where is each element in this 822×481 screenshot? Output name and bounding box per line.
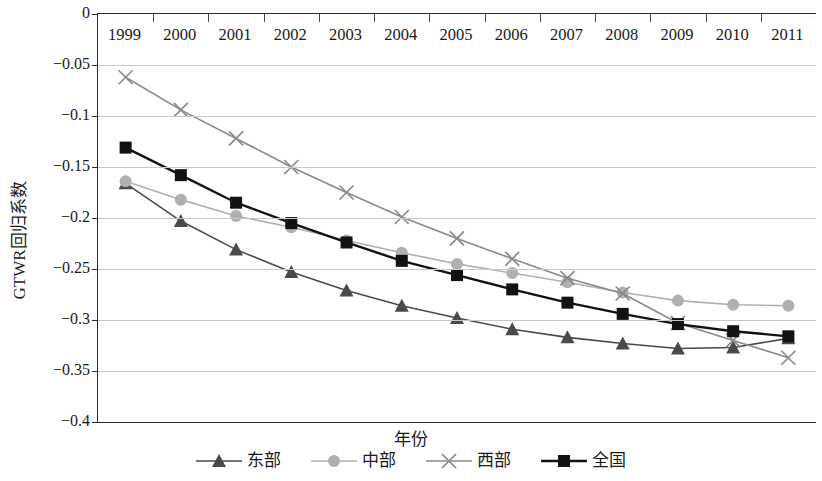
- y-axis-tickmark: [92, 167, 98, 168]
- x-axis-tickmark: [540, 14, 541, 22]
- y-axis-tickmark: [92, 269, 98, 270]
- data-point-square: [230, 197, 242, 209]
- x-axis-tickmark: [264, 14, 265, 22]
- data-point-triangle: [395, 299, 409, 312]
- x-axis-tick-label: 2004: [373, 22, 428, 48]
- x-axis-tickmark: [650, 14, 651, 22]
- x-axis-tick-label: 2000: [152, 22, 207, 48]
- x-axis-tickmark: [706, 14, 707, 22]
- data-point-circle: [672, 295, 684, 307]
- gridline: [98, 167, 816, 168]
- data-point-square: [506, 283, 518, 295]
- x-axis-title: 年份: [0, 425, 822, 450]
- data-point-square: [341, 236, 353, 248]
- data-point-triangle: [229, 243, 243, 256]
- y-axis-tick-label: −0.15: [28, 158, 90, 174]
- x-axis-tick-label: 2002: [263, 22, 318, 48]
- x-axis-tick-labels: 1999200020012002200320042005200620072008…: [97, 22, 815, 48]
- data-point-square: [782, 330, 794, 342]
- data-point-triangle: [284, 265, 298, 278]
- y-axis-tickmark: [92, 422, 98, 423]
- data-point-square: [558, 455, 570, 467]
- x-axis-tick-label: 2010: [705, 22, 760, 48]
- data-point-cross: [395, 210, 409, 224]
- x-axis-tick-label: 2006: [484, 22, 539, 48]
- legend-item-中部[interactable]: 中部: [311, 452, 396, 469]
- data-point-circle: [328, 455, 340, 467]
- data-point-cross: [119, 70, 133, 84]
- legend-label: 全国: [592, 452, 626, 469]
- data-point-square: [175, 169, 187, 181]
- legend-label: 西部: [477, 452, 511, 469]
- x-axis-tick-label: 2001: [207, 22, 262, 48]
- x-axis-tick-label: 2011: [760, 22, 815, 48]
- y-axis-tick-label: −0.05: [28, 56, 90, 72]
- x-axis-tickmark: [485, 14, 486, 22]
- legend-item-东部[interactable]: 东部: [196, 452, 281, 469]
- y-axis-tick-label: 0: [28, 5, 90, 21]
- chart-legend: 东部中部西部全国: [0, 452, 822, 469]
- y-axis-tick-label: −0.1: [28, 107, 90, 123]
- legend-swatch: [311, 454, 357, 468]
- legend-swatch: [426, 454, 472, 468]
- data-point-square: [396, 255, 408, 267]
- gridline: [98, 65, 816, 66]
- data-point-square: [617, 308, 629, 320]
- x-axis-tick-label: 1999: [97, 22, 152, 48]
- x-axis-title-label: 年份: [394, 430, 428, 449]
- gridline: [98, 218, 816, 219]
- data-point-cross: [505, 252, 519, 266]
- y-axis-tick-label: −0.2: [28, 209, 90, 225]
- gridline: [98, 116, 816, 117]
- legend-label: 中部: [362, 452, 396, 469]
- gridline: [98, 371, 816, 372]
- y-axis-tickmark: [92, 218, 98, 219]
- y-axis-tickmark: [92, 320, 98, 321]
- x-axis-tickmark: [595, 14, 596, 22]
- data-point-square: [561, 297, 573, 309]
- legend-swatch: [541, 454, 587, 468]
- gridline: [98, 320, 816, 321]
- data-point-circle: [782, 300, 794, 312]
- legend-item-全国[interactable]: 全国: [541, 452, 626, 469]
- data-point-square: [451, 269, 463, 281]
- y-axis-tick-label: −0.3: [28, 311, 90, 327]
- x-axis-tickmark: [208, 14, 209, 22]
- legend-item-西部[interactable]: 西部: [426, 452, 511, 469]
- data-point-cross: [340, 186, 354, 200]
- y-axis-tick-labels: 0−0.05−0.1−0.15−0.2−0.25−0.3−0.35−0.4: [24, 0, 90, 481]
- y-axis-tickmark: [92, 14, 98, 15]
- data-point-cross: [174, 103, 188, 117]
- x-axis-tickmark: [761, 14, 762, 22]
- x-axis-tick-label: 2007: [539, 22, 594, 48]
- y-axis-tickmark: [92, 116, 98, 117]
- x-axis-tick-label: 2003: [318, 22, 373, 48]
- x-axis-tickmark: [374, 14, 375, 22]
- data-point-cross: [781, 351, 795, 365]
- data-point-circle: [230, 210, 242, 222]
- legend-swatch: [196, 454, 242, 468]
- gtwr-coefficient-line-chart: GTWR回归系数 0−0.05−0.1−0.15−0.2−0.25−0.3−0.…: [0, 0, 822, 481]
- x-axis-tickmark: [429, 14, 430, 22]
- plot-area: [97, 13, 816, 423]
- data-point-cross: [450, 231, 464, 245]
- x-axis-tick-label: 2005: [428, 22, 483, 48]
- y-axis-tickmark: [92, 371, 98, 372]
- data-point-square: [727, 325, 739, 337]
- x-axis-tick-label: 2009: [649, 22, 704, 48]
- data-point-circle: [727, 299, 739, 311]
- data-point-triangle: [340, 283, 354, 296]
- x-axis-tickmark: [319, 14, 320, 22]
- y-axis-tick-label: −0.25: [28, 260, 90, 276]
- gridline: [98, 269, 816, 270]
- data-point-triangle: [174, 214, 188, 227]
- data-point-circle: [120, 175, 132, 187]
- x-axis-tickmark: [153, 14, 154, 22]
- x-axis-tick-label: 2008: [594, 22, 649, 48]
- y-axis-tick-label: −0.35: [28, 362, 90, 378]
- data-point-square: [120, 142, 132, 154]
- legend-label: 东部: [247, 452, 281, 469]
- data-point-cross: [229, 131, 243, 145]
- series-line: [126, 148, 789, 337]
- y-axis-tickmark: [92, 65, 98, 66]
